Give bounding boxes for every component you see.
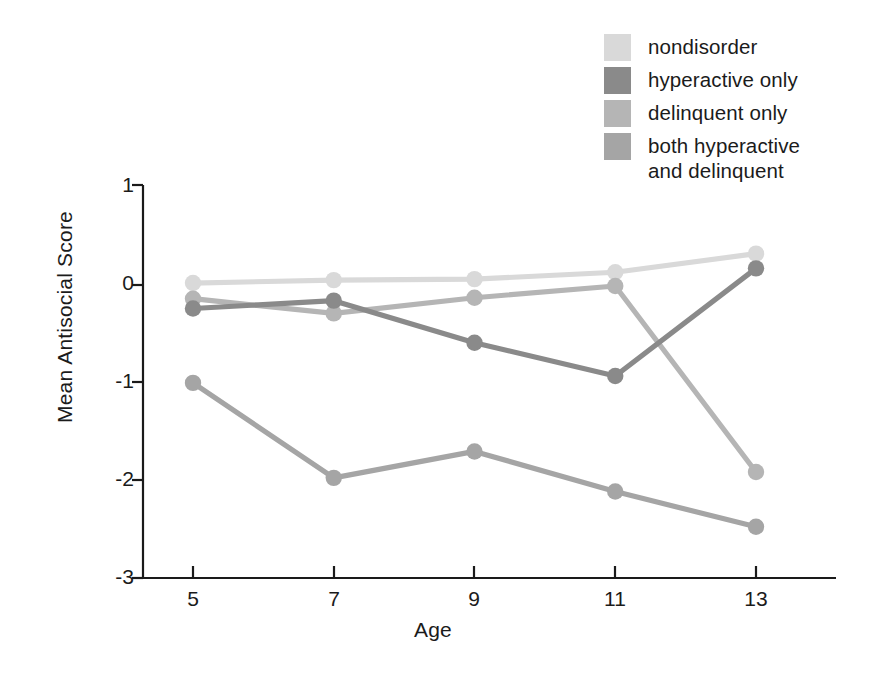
data-point: [466, 271, 482, 287]
chart-figure: nondisorder hyperactive only delinquent …: [0, 0, 880, 681]
data-point: [185, 275, 201, 291]
data-point: [748, 519, 764, 535]
data-point: [326, 292, 342, 308]
data-point: [185, 300, 201, 316]
data-point: [185, 375, 201, 391]
data-point: [607, 368, 623, 384]
data-point: [748, 245, 764, 261]
data-point: [466, 290, 482, 306]
chart-plot-area: [0, 0, 880, 681]
data-point: [466, 335, 482, 351]
data-series-layer: [185, 245, 764, 535]
data-point: [748, 464, 764, 480]
data-point: [326, 272, 342, 288]
data-point: [466, 443, 482, 459]
data-point: [326, 470, 342, 486]
data-point: [748, 260, 764, 276]
series-nondisorder: [185, 245, 764, 291]
data-point: [607, 483, 623, 499]
data-point: [607, 278, 623, 294]
series-both-hyperactive-and-delinquent: [185, 375, 764, 535]
